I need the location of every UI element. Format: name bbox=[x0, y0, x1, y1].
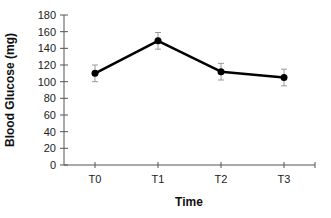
data-point bbox=[92, 70, 99, 77]
data-point bbox=[218, 68, 225, 75]
y-tick-label: 140 bbox=[38, 42, 56, 54]
line-chart: 020406080100120140160180 T0T1T2T3 Blood … bbox=[0, 0, 331, 218]
y-tick-label: 160 bbox=[38, 26, 56, 38]
x-axis: T0T1T2T3 bbox=[64, 162, 315, 185]
y-tick-label: 180 bbox=[38, 9, 56, 21]
x-tick-label: T2 bbox=[215, 173, 228, 185]
x-tick-label: T0 bbox=[89, 173, 102, 185]
y-tick-label: 100 bbox=[38, 76, 56, 88]
x-axis-title: Time bbox=[175, 195, 203, 209]
y-tick-label: 80 bbox=[44, 92, 56, 104]
data-point bbox=[155, 37, 162, 44]
y-tick-label: 120 bbox=[38, 59, 56, 71]
y-tick-label: 40 bbox=[44, 126, 56, 138]
series-line bbox=[95, 41, 284, 78]
y-axis: 020406080100120140160180 bbox=[38, 9, 68, 171]
y-axis-title: Blood Glucose (mg) bbox=[3, 33, 17, 147]
y-tick-label: 0 bbox=[50, 159, 56, 171]
data-series bbox=[92, 33, 288, 86]
x-tick-label: T1 bbox=[152, 173, 165, 185]
y-tick-label: 60 bbox=[44, 109, 56, 121]
x-tick-label: T3 bbox=[278, 173, 291, 185]
data-point bbox=[281, 74, 288, 81]
y-tick-label: 20 bbox=[44, 142, 56, 154]
